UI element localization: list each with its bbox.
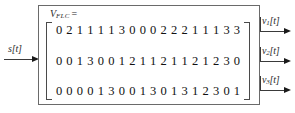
matrix-cell: 0: [127, 84, 137, 98]
output-arrow-line-3: [260, 90, 286, 91]
matrix-row: 0 0 1 3 0 0 1 2 1 1 2 1 1 2 1 2 3: [52, 54, 244, 68]
matrix-cell: 0: [64, 54, 74, 68]
matrix-cell: 2: [169, 23, 179, 37]
figure-container: s[t] VFLC= 0 2 1 1 1 1 3 0 0 0: [0, 0, 295, 113]
matrix-cell: 0: [117, 84, 127, 98]
output-arrow-head-icon-1: [284, 28, 291, 34]
matrix-cell: 2: [190, 54, 200, 68]
input-signal-group: s[t]: [2, 46, 42, 68]
matrix-cell: 0: [54, 23, 64, 37]
output-arrow-head-icon-3: [284, 87, 291, 93]
matrix-cell: 3: [232, 23, 242, 37]
matrix-cell: 2: [201, 84, 211, 98]
matrix-cell: 2: [159, 54, 169, 68]
matrix-cell: 3: [222, 23, 232, 37]
matrix-cell: 1: [85, 23, 95, 37]
matrix-cell: 1: [117, 54, 127, 68]
matrix-cell: 1: [190, 23, 200, 37]
matrix-row: 0 2 1 1 1 1 3 0 0 0 2 2 2 1 1 1 3: [52, 23, 244, 37]
matrix-cell: 1: [138, 54, 148, 68]
matrix-subscript: FLC: [56, 12, 69, 20]
matrix-cell: 0: [222, 84, 232, 98]
matrix-cell: 0: [148, 23, 158, 37]
matrix-cell: 3: [85, 54, 95, 68]
matrix-cell: 3: [222, 54, 232, 68]
output-signal-label-2: v2[t]: [262, 45, 280, 57]
matrix-cell: 3: [148, 84, 158, 98]
matrix-group: VFLC= 0 2 1 1 1 1 3 0 0 0 2 2 2: [44, 8, 254, 102]
output-connector-1: [260, 17, 261, 32]
output-connector-3: [260, 76, 261, 91]
output-arrow-head-icon-2: [284, 58, 291, 64]
matrix-cell: 3: [180, 84, 190, 98]
matrix-rows: 0 2 1 1 1 1 3 0 0 0 2 2 2 1 1 1 3: [52, 22, 244, 100]
matrix-cell: 1: [96, 23, 106, 37]
output-arrow-line-2: [260, 61, 286, 62]
output-bracket: [t]: [270, 45, 280, 56]
input-signal-label: s[t]: [8, 43, 22, 54]
output-arrow-line-1: [260, 31, 286, 32]
matrix-cell: 0: [159, 84, 169, 98]
matrix-cell: 1: [201, 23, 211, 37]
matrix-cell: 3: [106, 84, 116, 98]
matrix-cell: 1: [96, 84, 106, 98]
matrix-cell: 0: [75, 84, 85, 98]
matrix-right-bracket-icon: [244, 22, 250, 100]
matrix-cell: 1: [75, 23, 85, 37]
output-signal-group-1: v1[t]: [258, 17, 295, 41]
matrix-cell: 3: [117, 23, 127, 37]
matrix-cell: 1: [211, 23, 221, 37]
matrix-cell: 0: [106, 54, 116, 68]
matrix-cell: 1: [138, 84, 148, 98]
matrix-cell: 0: [127, 23, 137, 37]
matrix-row: 0 0 0 0 1 3 0 0 1 3 0 1 3 1 2 3 0: [52, 84, 244, 98]
matrix-name-label: VFLC=: [50, 8, 77, 20]
output-connector-2: [260, 47, 261, 62]
matrix-equals-sign: =: [72, 8, 78, 19]
matrix-cell: 2: [64, 23, 74, 37]
matrix-cell: 1: [148, 54, 158, 68]
matrix-cell: 0: [232, 54, 242, 68]
output-signal-label-1: v1[t]: [262, 15, 280, 27]
matrix-cell: 2: [211, 54, 221, 68]
matrix-cell: 1: [180, 54, 190, 68]
matrix-cell: 2: [159, 23, 169, 37]
matrix-cell: 1: [201, 54, 211, 68]
matrix-cell: 1: [169, 84, 179, 98]
matrix-cell: 0: [96, 54, 106, 68]
matrix-cell: 0: [138, 23, 148, 37]
output-signal-group-3: v3[t]: [258, 76, 295, 100]
matrix-cell: 2: [127, 54, 137, 68]
matrix-cell: 1: [106, 23, 116, 37]
matrix-cell: 1: [169, 54, 179, 68]
input-arrow-line: [4, 59, 34, 60]
output-signal-label-3: v3[t]: [262, 74, 280, 86]
matrix-cell: 3: [211, 84, 221, 98]
matrix-cell: 1: [232, 84, 242, 98]
matrix-cell: 0: [64, 84, 74, 98]
output-bracket: [t]: [270, 15, 280, 26]
matrix-cell: 2: [180, 23, 190, 37]
output-signal-group-2: v2[t]: [258, 47, 295, 71]
output-bracket: [t]: [270, 74, 280, 85]
matrix-cell: 0: [54, 54, 64, 68]
matrix-cell: 0: [54, 84, 64, 98]
matrix-cell: 0: [85, 84, 95, 98]
matrix-cell: 1: [75, 54, 85, 68]
matrix-cell: 1: [190, 84, 200, 98]
matrix-body: 0 2 1 1 1 1 3 0 0 0 2 2 2 1 1 1 3: [46, 22, 250, 100]
